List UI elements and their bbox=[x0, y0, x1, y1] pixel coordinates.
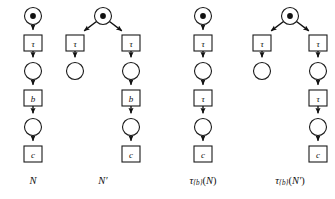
place-TN-p1[interactable] bbox=[195, 63, 212, 80]
net-tau-b-Nprime: τττcτ{b}(N′) bbox=[253, 8, 327, 187]
net-tau-b-N: ττcτ{b}(N) bbox=[189, 8, 217, 187]
place-circle-TN-p2 bbox=[195, 119, 212, 136]
transition-TNp-t2[interactable]: τ bbox=[309, 90, 327, 106]
transition-label-Np-t2: b bbox=[129, 94, 134, 104]
place-circle-TNp-p3 bbox=[310, 119, 327, 136]
net-Nprime: ττbcN′ bbox=[66, 8, 140, 186]
net-caption-net-tau-b-Nprime: τ{b}(N′) bbox=[275, 175, 305, 187]
transition-label-N-t1: b bbox=[31, 94, 36, 104]
place-TN-p0[interactable] bbox=[195, 8, 212, 25]
transition-label-N-t2: c bbox=[31, 150, 35, 160]
net-caption-net-tau-b-N: τ{b}(N) bbox=[189, 175, 217, 187]
transition-N-t0[interactable]: τ bbox=[24, 35, 42, 51]
transition-TN-t2[interactable]: c bbox=[194, 146, 212, 162]
place-circle-N-p1 bbox=[25, 63, 42, 80]
token-dot-Np-p0 bbox=[100, 13, 106, 19]
place-Np-p1[interactable] bbox=[67, 63, 84, 80]
arc-net-tau-b-Nprime-0 bbox=[271, 22, 283, 31]
token-dot-TN-p0 bbox=[200, 13, 206, 19]
transition-Np-t2[interactable]: b bbox=[122, 90, 140, 106]
place-circle-TNp-p2 bbox=[310, 63, 327, 80]
place-circle-TN-p1 bbox=[195, 63, 212, 80]
transition-N-t1[interactable]: b bbox=[24, 90, 42, 106]
transition-Np-t0[interactable]: τ bbox=[66, 35, 84, 51]
place-Np-p0[interactable] bbox=[95, 8, 112, 25]
arc-net-Nprime-1 bbox=[110, 22, 122, 31]
place-N-p2[interactable] bbox=[25, 119, 42, 136]
net-caption-net-Nprime: N′ bbox=[97, 175, 108, 186]
transition-N-t2[interactable]: c bbox=[24, 146, 42, 162]
caption-paren-close: ) bbox=[301, 175, 305, 187]
caption-subscript: {b} bbox=[193, 179, 202, 187]
nets-layer: τbcNττbcN′ττcτ{b}(N)τττcτ{b}(N′) bbox=[24, 8, 327, 187]
place-N-p1[interactable] bbox=[25, 63, 42, 80]
place-TN-p2[interactable] bbox=[195, 119, 212, 136]
place-circle-Np-p1 bbox=[67, 63, 84, 80]
place-TNp-p1[interactable] bbox=[254, 63, 271, 80]
transition-TN-t1[interactable]: τ bbox=[194, 90, 212, 106]
net-caption-net-N: N bbox=[28, 175, 37, 186]
transition-TNp-t0[interactable]: τ bbox=[253, 35, 271, 51]
petri-net-canvas: τbcNττbcN′ττcτ{b}(N)τττcτ{b}(N′) bbox=[0, 0, 335, 199]
place-Np-p3[interactable] bbox=[123, 119, 140, 136]
place-N-p0[interactable] bbox=[25, 8, 42, 25]
place-circle-TNp-p1 bbox=[254, 63, 271, 80]
transition-label-TNp-t3: c bbox=[316, 150, 320, 160]
place-TNp-p0[interactable] bbox=[282, 8, 299, 25]
token-dot-TNp-p0 bbox=[287, 13, 293, 19]
petri-net-figure: τbcNττbcN′ττcτ{b}(N)τττcτ{b}(N′) bbox=[0, 0, 335, 199]
net-N: τbcN bbox=[24, 8, 42, 186]
caption-subscript: {b} bbox=[279, 179, 288, 187]
transition-TNp-t1[interactable]: τ bbox=[309, 35, 327, 51]
transition-Np-t3[interactable]: c bbox=[122, 146, 140, 162]
arc-net-tau-b-Nprime-1 bbox=[297, 22, 309, 31]
transition-TNp-t3[interactable]: c bbox=[309, 146, 327, 162]
transition-Np-t1[interactable]: τ bbox=[122, 35, 140, 51]
place-circle-Np-p3 bbox=[123, 119, 140, 136]
place-TNp-p3[interactable] bbox=[310, 119, 327, 136]
place-circle-N-p2 bbox=[25, 119, 42, 136]
place-circle-Np-p2 bbox=[123, 63, 140, 80]
place-TNp-p2[interactable] bbox=[310, 63, 327, 80]
transition-label-TN-t2: c bbox=[201, 150, 205, 160]
arc-net-Nprime-0 bbox=[84, 22, 96, 31]
caption-paren-close: ) bbox=[213, 175, 217, 187]
transition-TN-t0[interactable]: τ bbox=[194, 35, 212, 51]
place-Np-p2[interactable] bbox=[123, 63, 140, 80]
transition-label-Np-t3: c bbox=[129, 150, 133, 160]
token-dot-N-p0 bbox=[30, 13, 36, 19]
